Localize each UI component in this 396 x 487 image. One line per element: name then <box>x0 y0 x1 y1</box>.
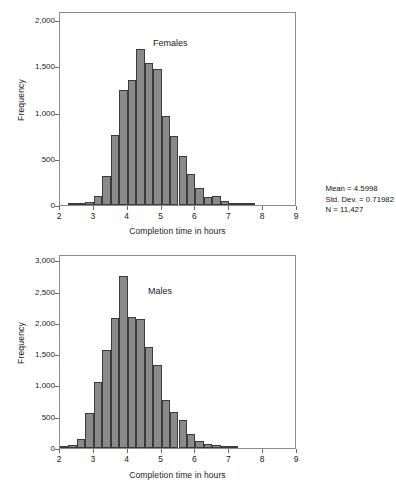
y-tick-mark <box>55 355 59 356</box>
histogram-males: Frequency 05001,0001,5002,0002,5003,000 … <box>0 243 396 487</box>
x-tick-mark <box>161 449 162 453</box>
x-tick-label: 2 <box>49 454 69 464</box>
x-tick-mark <box>127 449 128 453</box>
x-tick-mark <box>93 206 94 210</box>
series-label-males: Males <box>148 286 172 296</box>
histogram-bar <box>94 196 102 205</box>
y-tick-label: 2,000 <box>13 16 55 25</box>
histogram-bar <box>119 90 127 205</box>
histogram-bar <box>212 196 220 205</box>
y-tick-label: 1,500 <box>13 62 55 71</box>
histogram-bar <box>204 197 212 205</box>
x-tick-label: 9 <box>286 454 306 464</box>
histogram-bar <box>229 203 237 205</box>
histogram-bar <box>221 446 229 448</box>
histogram-bar <box>136 49 144 205</box>
y-axis-title-females: Frequency <box>16 65 26 135</box>
y-tick-label: 2,000 <box>13 319 55 328</box>
x-tick-label: 3 <box>83 211 103 221</box>
histogram-bar <box>60 446 68 448</box>
x-tick-label: 6 <box>184 454 204 464</box>
figure-root: Frequency 05001,0001,5002,000 23456789 F… <box>0 0 396 487</box>
x-axis-title-males: Completion time in hours <box>59 470 296 480</box>
y-tick-label: 2,500 <box>13 288 55 297</box>
histogram-bar <box>195 188 203 205</box>
histogram-bar <box>179 156 187 205</box>
stats-mean-females: Mean = 4.5998 <box>325 184 394 195</box>
histogram-bar <box>170 412 178 448</box>
histogram-bar <box>221 201 229 205</box>
x-tick-label: 5 <box>151 454 171 464</box>
x-tick-mark <box>59 206 60 210</box>
histogram-bar <box>212 445 220 448</box>
histogram-bar <box>102 350 110 448</box>
x-tick-label: 9 <box>286 211 306 221</box>
series-label-females: Females <box>153 38 188 48</box>
y-tick-mark <box>55 160 59 161</box>
stats-n-females: N = 11,427 <box>325 205 394 216</box>
histogram-bar <box>204 444 212 448</box>
x-tick-mark <box>228 206 229 210</box>
x-tick-mark <box>194 206 195 210</box>
x-tick-mark <box>161 206 162 210</box>
y-tick-mark <box>55 67 59 68</box>
y-tick-mark <box>55 418 59 419</box>
histogram-bar <box>246 203 254 205</box>
x-tick-label: 6 <box>184 211 204 221</box>
histogram-bar <box>128 317 136 448</box>
histogram-bar <box>119 276 127 448</box>
histogram-bar <box>153 69 161 205</box>
histogram-bar <box>187 434 195 448</box>
x-tick-label: 3 <box>83 454 103 464</box>
x-tick-label: 2 <box>49 211 69 221</box>
histogram-bar <box>128 80 136 205</box>
histogram-bar <box>170 136 178 205</box>
y-tick-label: 0 <box>13 201 55 210</box>
x-tick-mark <box>93 449 94 453</box>
x-tick-mark <box>262 449 263 453</box>
histogram-bar <box>85 413 93 448</box>
y-tick-label: 3,000 <box>13 256 55 265</box>
histogram-bar <box>136 319 144 448</box>
x-tick-mark <box>127 206 128 210</box>
plot-frame-males <box>59 255 296 449</box>
x-tick-mark <box>59 449 60 453</box>
bar-group-males <box>60 256 295 448</box>
plot-area-males <box>60 256 295 448</box>
y-tick-mark <box>55 293 59 294</box>
y-tick-mark <box>55 21 59 22</box>
histogram-bar <box>153 365 161 448</box>
histogram-bar <box>145 347 153 448</box>
x-tick-mark <box>262 206 263 210</box>
histogram-bar <box>94 382 102 448</box>
histogram-females: Frequency 05001,0001,5002,000 23456789 F… <box>0 0 396 243</box>
histogram-bar <box>111 318 119 448</box>
histogram-bar <box>229 446 237 448</box>
y-tick-label: 500 <box>13 413 55 422</box>
histogram-bar <box>187 174 195 205</box>
x-tick-label: 4 <box>117 211 137 221</box>
histogram-bar <box>179 420 187 448</box>
x-tick-label: 7 <box>218 454 238 464</box>
histogram-bar <box>77 439 85 448</box>
y-tick-label: 500 <box>13 155 55 164</box>
stats-block-females: Mean = 4.5998 Std. Dev. = 0.71982 N = 11… <box>325 184 394 216</box>
histogram-bar <box>77 203 85 205</box>
histogram-bar <box>85 202 93 205</box>
stats-sd-females: Std. Dev. = 0.71982 <box>325 195 394 206</box>
histogram-bar <box>102 176 110 205</box>
y-tick-label: 1,000 <box>13 109 55 118</box>
x-tick-label: 4 <box>117 454 137 464</box>
y-tick-mark <box>55 261 59 262</box>
histogram-bar <box>111 135 119 205</box>
x-tick-label: 5 <box>151 211 171 221</box>
x-tick-mark <box>228 449 229 453</box>
x-axis-title-females: Completion time in hours <box>59 226 296 236</box>
y-tick-mark <box>55 114 59 115</box>
y-tick-mark <box>55 386 59 387</box>
histogram-bar <box>145 63 153 205</box>
x-tick-mark <box>296 449 297 453</box>
histogram-bar <box>195 441 203 448</box>
y-tick-label: 1,000 <box>13 381 55 390</box>
x-tick-label: 7 <box>218 211 238 221</box>
